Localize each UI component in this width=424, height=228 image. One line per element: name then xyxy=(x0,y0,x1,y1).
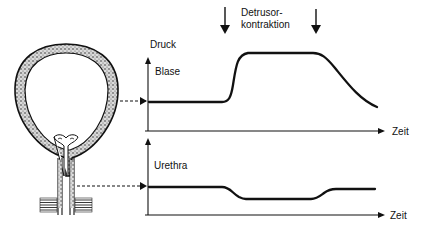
x-axis-label-zeit-bottom: Zeit xyxy=(390,210,407,221)
bladder-pressure-curve xyxy=(149,53,377,107)
detrusor-label-line1: Detrusor- xyxy=(241,7,283,18)
x-axis-label-zeit-top: Zeit xyxy=(392,126,409,137)
detrusor-end-arrow-icon xyxy=(311,9,321,34)
bottom-chart-axes xyxy=(145,138,385,218)
bladder-illustration xyxy=(15,44,118,176)
series-label-blase: Blase xyxy=(155,66,180,77)
pelvic-floor-muscle xyxy=(40,198,92,212)
series-label-urethra: Urethra xyxy=(154,160,187,171)
detrusor-label-line2: kontraktion xyxy=(241,19,290,30)
diagram-canvas xyxy=(0,0,424,228)
top-chart-axes xyxy=(145,57,385,134)
detrusor-start-arrow-icon xyxy=(220,7,230,34)
urethra-pressure-curve xyxy=(149,187,375,199)
y-axis-label-druck: Druck xyxy=(150,39,176,50)
